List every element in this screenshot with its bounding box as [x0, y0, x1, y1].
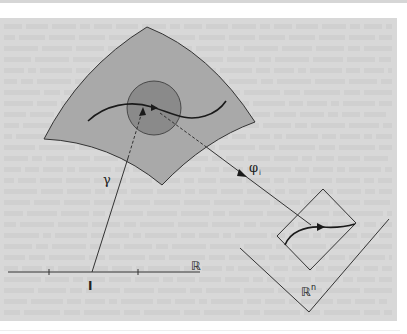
rn-label: ℝ: [301, 285, 311, 299]
manifold-chart-diagram: γ φ i ℝ I ℝ n: [0, 0, 407, 334]
phi-label: φ: [249, 160, 258, 175]
gamma-label: γ: [103, 172, 111, 187]
phi-subscript-label: i: [259, 169, 261, 177]
interval-label: I: [88, 279, 92, 293]
real-line-label: ℝ: [191, 259, 201, 273]
rn-superscript-label: n: [311, 283, 316, 292]
